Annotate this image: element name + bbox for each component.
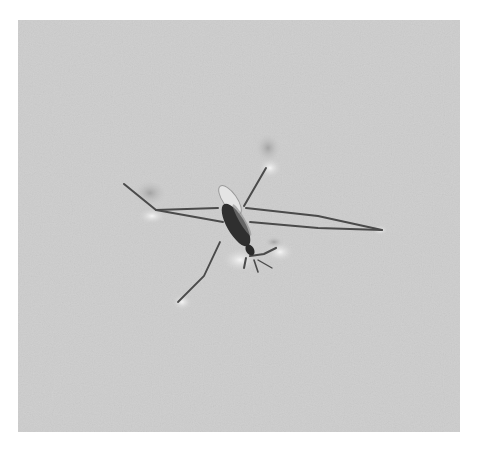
water-strider-photo — [18, 20, 460, 432]
image-frame — [0, 0, 483, 452]
water-strider-image — [18, 20, 460, 432]
